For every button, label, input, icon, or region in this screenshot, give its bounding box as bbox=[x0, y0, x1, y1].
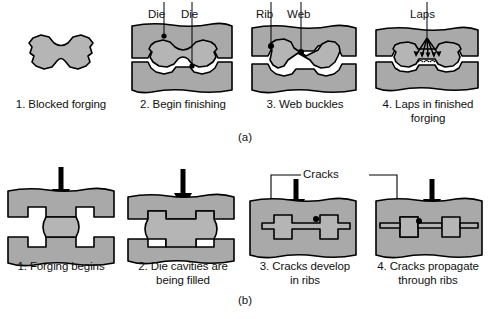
annotation-rib: Rib bbox=[256, 8, 273, 20]
caption-a1: 1. Blocked forging bbox=[0, 98, 122, 112]
caption-b2: 2. Die cavities are being filled bbox=[122, 260, 244, 287]
die-upper-callout-dot bbox=[161, 33, 166, 38]
caption-a4: 4. Laps in finished forging bbox=[366, 98, 490, 125]
panel-a4: Laps 4. Laps in finished forging bbox=[366, 0, 490, 155]
crack-callout-dot-b3 bbox=[313, 216, 319, 222]
crack-callout-dot-b4 bbox=[416, 218, 422, 224]
caption-a3: 3. Web buckles bbox=[244, 98, 366, 112]
sequence-a: 1. Blocked forging bbox=[0, 0, 490, 155]
annotation-web: Web bbox=[287, 8, 310, 20]
rib-callout-dot bbox=[268, 43, 274, 49]
panel-a1: 1. Blocked forging bbox=[0, 0, 122, 155]
forging-begins-art bbox=[0, 163, 122, 273]
forging-defects-figure: 1. Blocked forging bbox=[0, 0, 490, 319]
panel-b1: 1. Forging begins bbox=[0, 155, 122, 319]
annotation-laps: Laps bbox=[410, 8, 435, 20]
panel-b4: 4. Cracks propagate through ribs bbox=[366, 155, 490, 319]
annotation-die-upper: Die bbox=[148, 8, 165, 20]
caption-a2: 2. Begin finishing bbox=[122, 98, 244, 112]
annotation-die-lower: Die bbox=[181, 8, 198, 20]
web-callout-dot bbox=[298, 49, 304, 55]
sequence-b: Cracks 1. Forging begins bbox=[0, 155, 490, 319]
caption-b3: 3. Cracks develop in ribs bbox=[244, 260, 366, 287]
subfigure-label-b: (b) bbox=[225, 294, 265, 306]
subfigure-label-a: (a) bbox=[225, 131, 265, 143]
cavities-filling-art bbox=[122, 163, 244, 273]
caption-b1: 1. Forging begins bbox=[0, 260, 122, 274]
die-lower-callout-dot bbox=[189, 63, 194, 68]
caption-b4: 4. Cracks propagate through ribs bbox=[366, 260, 490, 287]
blocked-forging-art bbox=[0, 0, 122, 100]
